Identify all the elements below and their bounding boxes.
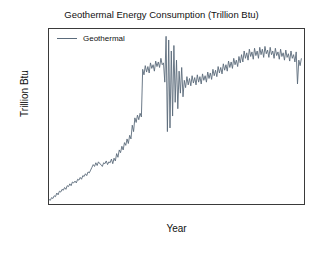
- x-axis-label: Year: [48, 223, 305, 234]
- legend-line-swatch: [57, 38, 77, 39]
- data-line-svg: [49, 29, 304, 204]
- legend: Geothermal: [57, 34, 125, 43]
- chart-screenshot: Geothermal Energy Consumption (Trillion …: [0, 0, 323, 253]
- plot-area: Geothermal: [48, 28, 305, 205]
- y-axis-tick-labels: [0, 0, 44, 253]
- legend-label-geothermal: Geothermal: [83, 34, 125, 43]
- series-geothermal-line: [49, 36, 301, 200]
- chart-title: Geothermal Energy Consumption (Trillion …: [0, 9, 323, 20]
